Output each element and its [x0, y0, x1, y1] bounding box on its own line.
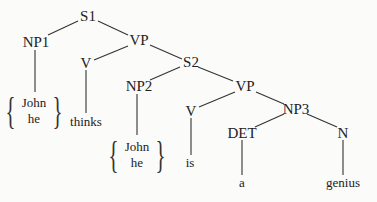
left-brace-icon: { — [6, 92, 16, 130]
leaf-thinks: thinks — [70, 115, 102, 128]
right-brace-icon: } — [52, 92, 62, 130]
leaf-np2-he: he — [131, 155, 143, 171]
edge-vp2-v2 — [199, 92, 235, 107]
edge-np3-n — [307, 114, 337, 127]
node-s1: S1 — [80, 9, 96, 24]
node-s2: S2 — [183, 55, 199, 70]
leaf-np1-alternatives: { John he } — [1, 92, 66, 130]
node-np2: NP2 — [126, 79, 153, 94]
node-n: N — [338, 126, 349, 141]
leaf-genius: genius — [326, 176, 360, 189]
edge-vp2-np3 — [256, 92, 284, 104]
edge-s1-vp1 — [98, 21, 128, 35]
leaf-np1-he: he — [28, 111, 40, 127]
node-v1: V — [81, 56, 92, 71]
edge-np3-det — [255, 114, 284, 127]
node-np1: NP1 — [23, 35, 50, 50]
leaf-np2-john: John — [125, 139, 150, 155]
node-vp1: VP — [129, 33, 148, 48]
edge-s2-vp2 — [198, 67, 233, 81]
leaf-a: a — [239, 176, 245, 189]
edge-s1-np1 — [48, 21, 78, 35]
right-brace-icon: } — [155, 136, 165, 174]
edge-s2-np2 — [150, 67, 180, 80]
leaf-np1-john: John — [22, 95, 47, 111]
left-brace-icon: { — [109, 136, 119, 174]
leaf-np2-alternatives: { John he } — [104, 136, 169, 174]
leaf-is: is — [186, 156, 195, 169]
node-np3: NP3 — [283, 102, 310, 117]
node-vp2: VP — [235, 79, 254, 94]
node-v2: V — [186, 104, 197, 119]
node-det: DET — [227, 126, 256, 141]
edge-vp1-s2 — [150, 45, 182, 59]
edge-vp1-v1 — [94, 46, 128, 60]
